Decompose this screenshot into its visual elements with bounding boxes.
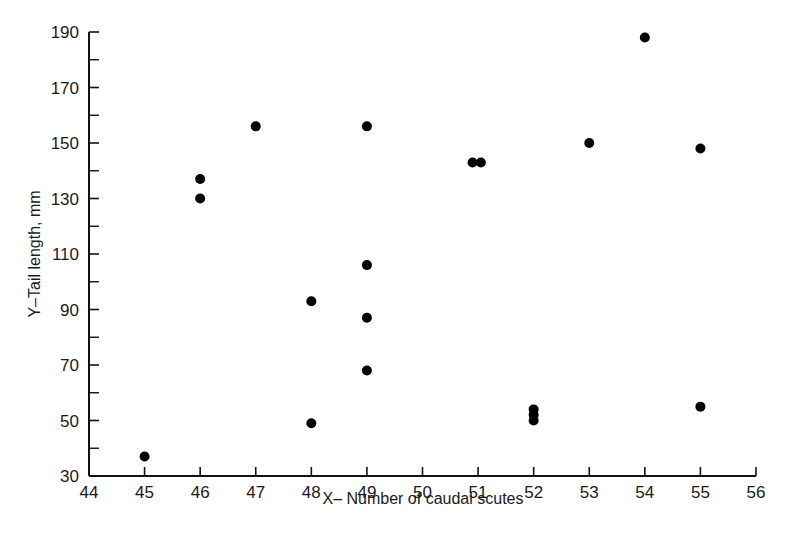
x-tick-label: 48 [302,483,321,502]
x-tick-label: 55 [691,483,710,502]
data-point [306,296,316,306]
data-point [140,452,150,462]
x-tick-label: 56 [747,483,766,502]
figure-caption-clipped [0,548,791,557]
data-point [584,138,594,148]
y-axis-title: Y–Tail length, mm [26,190,43,317]
y-tick-label: 150 [51,134,79,153]
x-tick-label: 44 [80,483,99,502]
data-point [695,144,705,154]
y-tick-label: 110 [52,245,79,264]
x-tick-label: 53 [580,483,599,502]
data-point [640,33,650,43]
x-tick-label: 45 [135,483,154,502]
y-tick-label: 190 [51,23,79,42]
y-tick-label: 50 [60,412,79,431]
data-point [476,157,486,167]
y-tick-label: 170 [51,79,79,98]
data-points [140,33,706,462]
data-point [529,416,539,426]
scatter-chart: 30507090110130150170190 4445464748495051… [0,0,791,557]
data-point [195,174,205,184]
y-tick-label: 90 [60,301,79,320]
x-axis-title: X– Number of caudal scutes [323,490,524,507]
x-tick-label: 52 [524,483,543,502]
data-point [695,402,705,412]
x-tick-label: 46 [191,483,210,502]
data-point [362,366,372,376]
data-point [362,260,372,270]
data-point [251,121,261,131]
x-tick-label: 47 [246,483,265,502]
x-tick-label: 54 [635,483,654,502]
data-point [362,121,372,131]
y-axis: 30507090110130150170190 [51,23,99,486]
data-point [195,194,205,204]
y-tick-label: 70 [60,356,79,375]
y-tick-label: 130 [51,190,79,209]
data-point [362,313,372,323]
data-point [306,418,316,428]
y-tick-label: 30 [60,467,79,486]
